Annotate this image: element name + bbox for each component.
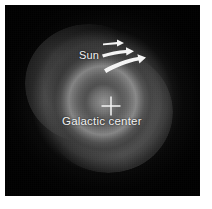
cross-marker-icon <box>100 95 122 117</box>
rotation-arrows-icon <box>101 35 155 87</box>
sun-label: Sun <box>79 49 99 61</box>
galaxy-image-plate: Sun Galactic center <box>5 5 200 196</box>
annotation-overlay: Sun Galactic center <box>5 5 200 196</box>
galaxy-figure: Sun Galactic center <box>0 0 212 209</box>
galactic-center-label: Galactic center <box>62 115 142 127</box>
